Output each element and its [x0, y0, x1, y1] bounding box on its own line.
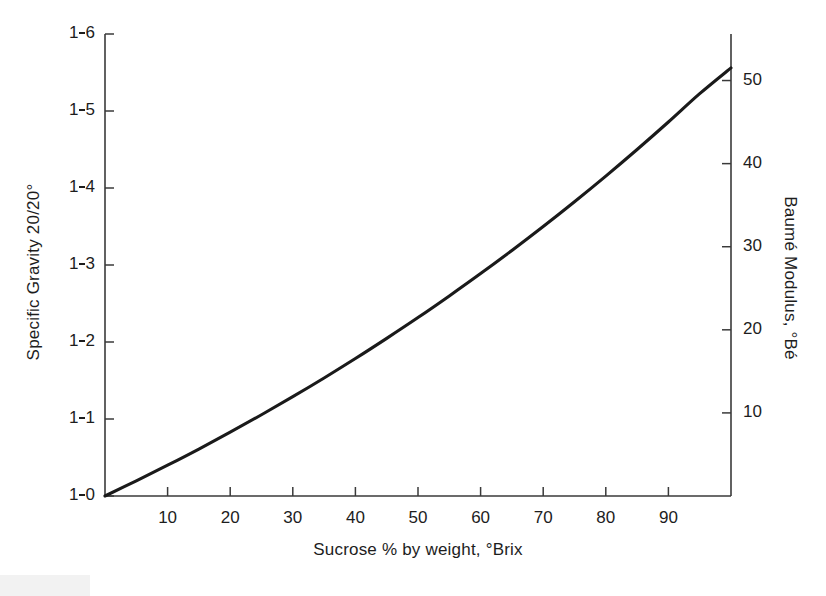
left-tick-integer: 1	[69, 100, 78, 119]
left-tick-decimal: 6	[86, 23, 95, 42]
left-tick-label: 16	[35, 23, 95, 43]
left-tick-integer: 1	[69, 177, 78, 196]
left-tick-label: 11	[35, 408, 95, 428]
left-tick-decimal: 3	[86, 254, 95, 273]
left-tick-decimal: 5	[86, 100, 95, 119]
bottom-tick-label: 90	[646, 508, 690, 528]
bottom-tick-label: 20	[208, 508, 252, 528]
left-axis-ticks	[105, 34, 114, 496]
bottom-tick-label: 40	[333, 508, 377, 528]
page-edge-shadow	[0, 575, 90, 596]
right-tick-label: 50	[743, 70, 803, 90]
right-tick-label: 40	[743, 153, 803, 173]
left-tick-integer: 1	[69, 23, 78, 42]
right-tick-label: 10	[743, 402, 803, 422]
bottom-tick-label: 60	[459, 508, 503, 528]
left-tick-decimal: 2	[86, 331, 95, 350]
left-tick-integer: 1	[69, 485, 78, 504]
right-tick-label: 20	[743, 319, 803, 339]
left-tick-integer: 1	[69, 254, 78, 273]
left-tick-label: 14	[35, 177, 95, 197]
left-tick-label: 13	[35, 254, 95, 274]
specific-gravity-curve	[105, 68, 731, 496]
bottom-tick-label: 10	[146, 508, 190, 528]
bottom-tick-label: 30	[271, 508, 315, 528]
left-tick-label: 15	[35, 100, 95, 120]
bottom-tick-label: 80	[584, 508, 628, 528]
figure-page: Specific Gravity 20/20° Baumé Modulus, °…	[0, 0, 826, 596]
chart-figure: Specific Gravity 20/20° Baumé Modulus, °…	[0, 0, 826, 596]
left-tick-integer: 1	[69, 408, 78, 427]
x-axis-title: Sucrose % by weight, °Brix	[213, 540, 623, 560]
left-tick-integer: 1	[69, 331, 78, 350]
right-tick-label: 30	[743, 236, 803, 256]
left-tick-decimal: 4	[86, 177, 95, 196]
left-tick-label: 10	[35, 485, 95, 505]
right-axis-ticks	[722, 81, 731, 413]
bottom-tick-label: 50	[396, 508, 440, 528]
plot-canvas	[0, 0, 826, 596]
left-tick-decimal: 1	[86, 408, 95, 427]
left-tick-label: 12	[35, 331, 95, 351]
left-tick-decimal: 0	[86, 485, 95, 504]
bottom-tick-label: 70	[521, 508, 565, 528]
bottom-axis-ticks	[168, 487, 669, 496]
